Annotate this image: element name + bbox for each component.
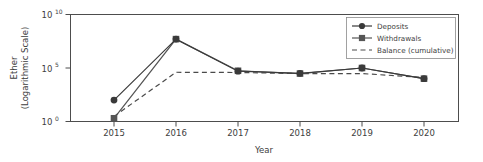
legend-label-withdrawals: Withdrawals <box>377 34 422 43</box>
data-point-withdrawals-2015 <box>111 115 118 122</box>
data-point-deposits-2015 <box>111 97 118 104</box>
x-axis-title: Year <box>254 145 274 155</box>
y-axis-title-line2: (Logarithmic Scale) <box>20 27 30 110</box>
x-tick-label-2020: 2020 <box>413 128 435 138</box>
data-point-deposits-2018 <box>297 70 304 77</box>
y-axis-title-line1: Ether <box>9 56 19 79</box>
x-tick-label-2016: 2016 <box>165 128 187 138</box>
y-tick-label-exp-1e5: 5 <box>55 61 59 68</box>
circle-marker-icon <box>359 23 365 29</box>
data-point-deposits-2020 <box>421 75 428 82</box>
y-tick-label-exp-1e10: 10 <box>55 8 63 15</box>
square-marker-icon <box>359 35 365 41</box>
y-tick-label-base-1e5: 10 <box>42 64 53 74</box>
data-point-deposits-2017 <box>235 68 242 75</box>
data-point-deposits-2016 <box>173 36 180 43</box>
chart-figure: 10 10 10 5 10 0 Ether (Logarithmic Scale… <box>0 0 483 162</box>
y-tick-label-exp-1e0: 0 <box>55 115 59 122</box>
legend-label-balance: Balance (cumulative) <box>377 46 454 55</box>
legend-label-deposits: Deposits <box>377 22 408 31</box>
x-tick-label-2018: 2018 <box>289 128 311 138</box>
y-tick-label-base-1e0: 10 <box>42 117 53 127</box>
x-tick-label-2019: 2019 <box>351 128 373 138</box>
x-tick-label-2015: 2015 <box>103 128 125 138</box>
y-tick-label-base-1e10: 10 <box>42 10 53 20</box>
x-tick-label-2017: 2017 <box>227 128 249 138</box>
chart-legend[interactable]: Deposits Withdrawals Balance (cumulative… <box>347 18 456 59</box>
data-point-deposits-2019 <box>359 65 366 72</box>
